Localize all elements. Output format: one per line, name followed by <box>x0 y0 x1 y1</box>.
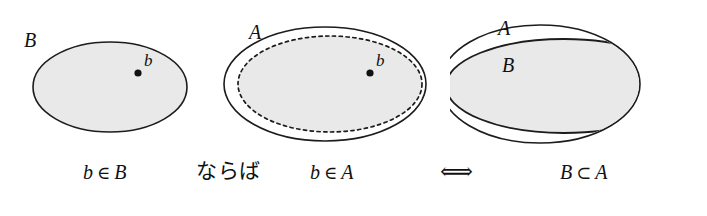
label-set-a: A <box>249 22 261 42</box>
panel-set-b-with-element: B b b∈B <box>0 0 210 216</box>
caption-3-operator: ⊂ <box>572 162 595 183</box>
caption-b-in-b: b∈B <box>83 162 127 182</box>
panel-2-graphics <box>210 0 450 216</box>
label-set-a-outer: A <box>498 18 510 38</box>
caption-1-operator: ∈ <box>93 162 114 183</box>
caption-2-left: b <box>310 161 320 183</box>
point-b-dot <box>134 69 141 76</box>
caption-b-subset-a: B⊂A <box>560 162 608 182</box>
caption-2-right: A <box>341 161 353 183</box>
caption-3-left: B <box>560 161 572 183</box>
ellipse-b <box>33 42 187 132</box>
panel-set-a-with-dashed-subset: A b b∈A <box>210 0 450 216</box>
point-b-dot <box>366 69 373 76</box>
panel-3-graphics <box>450 0 707 216</box>
caption-2-operator: ∈ <box>320 162 341 183</box>
ellipse-b-inner-dashed <box>238 36 422 132</box>
caption-b-in-a: b∈A <box>310 162 354 182</box>
label-point-b: b <box>144 52 153 69</box>
label-set-b: B <box>24 30 36 50</box>
caption-1-right: B <box>114 161 126 183</box>
caption-3-right: A <box>595 161 607 183</box>
ellipse-b-inner <box>450 39 682 133</box>
panel-b-subset-a: A B B⊂A <box>450 0 707 216</box>
label-set-b-inner: B <box>502 55 514 75</box>
label-point-b: b <box>376 52 385 69</box>
set-theory-figure: B b b∈B ならば A b b∈A ⟺ A B B⊂A <box>0 0 707 216</box>
caption-1-left: b <box>83 161 93 183</box>
